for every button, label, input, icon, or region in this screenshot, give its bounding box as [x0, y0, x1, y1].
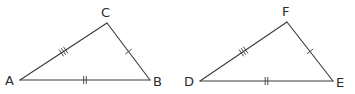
triangle-def: DEF: [184, 4, 344, 90]
congruence-tick-mark: [307, 49, 313, 54]
vertex-label-c: C: [101, 5, 110, 20]
vertex-label-d: D: [184, 74, 194, 89]
congruence-tick-mark: [125, 49, 131, 54]
vertex-label-b: B: [153, 74, 162, 89]
congruent-triangles-figure: ABC DEF: [0, 0, 355, 94]
vertex-label-f: F: [282, 4, 289, 19]
vertex-label-a: A: [5, 73, 14, 88]
vertex-label-e: E: [336, 75, 344, 90]
triangle-abc: ABC: [5, 5, 162, 89]
